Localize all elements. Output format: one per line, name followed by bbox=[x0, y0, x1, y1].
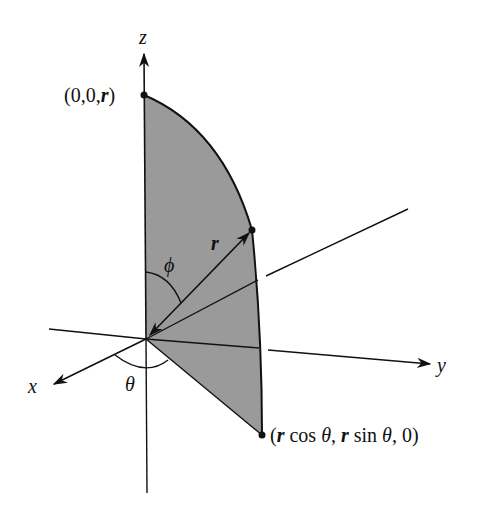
phi-label: ϕ bbox=[164, 254, 174, 277]
x-axis-label: x bbox=[27, 375, 37, 397]
radius-label: r bbox=[211, 232, 219, 254]
theta-label: θ bbox=[125, 373, 135, 395]
z-axis-label: z bbox=[138, 26, 147, 48]
y-axis-label: y bbox=[435, 354, 446, 377]
y-axis-negative bbox=[49, 329, 146, 339]
point-bottom bbox=[259, 432, 266, 439]
point-top bbox=[141, 92, 148, 99]
theta-angle-arc bbox=[115, 355, 168, 368]
bottom-point-label: (r cos θ, r sin θ, 0) bbox=[270, 424, 419, 447]
spherical-coordinates-diagram: z x y r ϕ θ (0,0,r) (r cos θ, r sin θ, 0… bbox=[0, 0, 482, 521]
top-point-label: (0,0,r) bbox=[64, 84, 115, 107]
z-axis-negative bbox=[146, 339, 147, 493]
point-mid bbox=[249, 227, 256, 234]
shaded-sector bbox=[144, 95, 262, 435]
y-axis bbox=[268, 350, 430, 364]
x-axis-negative-outside bbox=[266, 209, 408, 276]
